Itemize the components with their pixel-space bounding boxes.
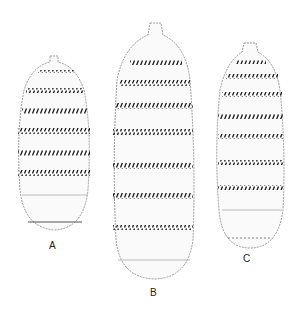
label-b: B	[150, 287, 157, 298]
specimen-b	[113, 23, 194, 279]
specimen-c	[217, 43, 284, 248]
label-a: A	[49, 240, 56, 251]
specimen-a	[18, 56, 90, 230]
larvae-illustration	[0, 0, 301, 309]
label-c: C	[243, 253, 250, 264]
